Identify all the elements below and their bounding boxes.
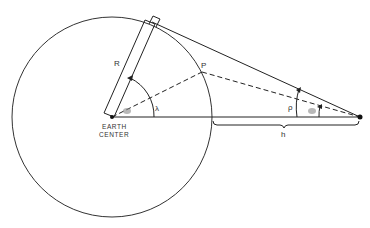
radius-label: R: [114, 59, 120, 68]
altitude-label: h: [281, 130, 285, 139]
p-label: P: [201, 61, 206, 70]
earth-geometry-diagram: R λ P ρ h EARTH CENTER: [0, 0, 370, 228]
lambda-label: λ: [155, 104, 159, 113]
rho-label: ρ: [288, 103, 293, 112]
earth-center-dot: [110, 115, 114, 119]
p-to-spacecraft-line: [202, 72, 360, 117]
spacecraft-dot: [358, 115, 363, 120]
smudge-mark-center: [123, 108, 131, 114]
earth-center-label-line2: CENTER: [99, 131, 129, 138]
altitude-brace: [213, 121, 359, 128]
rho-arc: [296, 89, 299, 117]
earth-center-label-line1: EARTH: [102, 123, 127, 130]
horizon-tangent-line: [152, 22, 360, 117]
smudge-mark-spacecraft: [308, 108, 316, 114]
radius-bracket: [104, 20, 155, 117]
